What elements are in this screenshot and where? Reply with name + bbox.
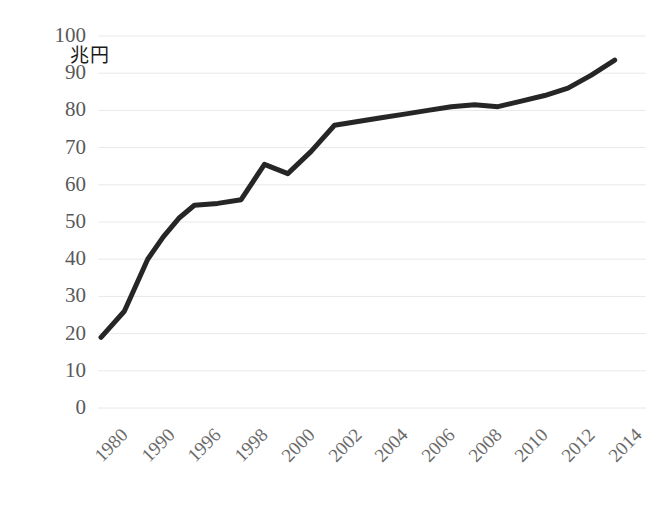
data-series-group: [101, 60, 615, 337]
y-axis-tick-label: 10: [20, 358, 86, 383]
data-line: [101, 60, 615, 337]
y-axis-tick-label: 0: [20, 395, 86, 420]
y-axis-tick-label: 70: [20, 135, 86, 160]
y-axis-tick-label: 50: [20, 209, 86, 234]
line-chart: 兆円 1009080706050403020100 19801990199619…: [0, 0, 661, 508]
y-axis-tick-label: 100: [20, 23, 86, 48]
y-axis-tick-label: 20: [20, 321, 86, 346]
chart-canvas: [0, 0, 661, 508]
y-axis-tick-label: 40: [20, 246, 86, 271]
y-axis-tick-label: 30: [20, 283, 86, 308]
y-axis-tick-label: 60: [20, 172, 86, 197]
y-axis-tick-label: 80: [20, 97, 86, 122]
y-axis-tick-label: 90: [20, 60, 86, 85]
